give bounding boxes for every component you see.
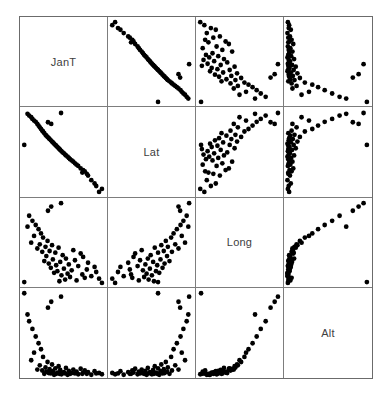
data-point	[148, 266, 153, 271]
data-point	[204, 31, 209, 36]
data-point	[228, 128, 233, 133]
data-point	[299, 115, 304, 120]
splom-diagonal-cell-alt: Alt	[284, 288, 372, 378]
data-point	[229, 137, 234, 142]
data-point	[179, 350, 184, 355]
data-point	[33, 222, 38, 227]
data-point	[42, 258, 47, 263]
data-point	[33, 334, 38, 339]
data-point	[145, 365, 150, 370]
data-point	[44, 253, 49, 258]
data-point	[307, 233, 312, 238]
data-point	[253, 96, 258, 101]
data-point	[80, 170, 85, 175]
data-point	[186, 96, 191, 101]
data-point	[299, 92, 304, 97]
data-point	[224, 369, 229, 374]
data-point	[89, 178, 94, 183]
data-point	[350, 208, 355, 213]
data-point	[113, 20, 118, 25]
data-point	[211, 172, 216, 177]
data-point	[285, 178, 290, 183]
data-point	[126, 260, 131, 265]
splom-scatter-plot	[284, 198, 372, 287]
data-point	[231, 86, 236, 91]
data-point	[220, 161, 225, 166]
data-point	[59, 294, 64, 299]
data-point	[224, 77, 229, 82]
data-point	[218, 34, 223, 39]
splom-panel-lat-vs-long	[196, 107, 284, 197]
data-point	[231, 122, 236, 127]
data-point	[49, 204, 54, 209]
data-point	[22, 143, 27, 148]
data-point	[59, 200, 64, 205]
data-point	[276, 294, 281, 299]
data-point	[242, 80, 247, 85]
data-point	[361, 200, 366, 205]
data-point	[225, 60, 230, 65]
data-point	[239, 76, 244, 81]
data-point	[302, 235, 307, 240]
data-point	[49, 122, 54, 127]
data-point	[227, 143, 232, 148]
splom-scatter-plot	[108, 198, 195, 287]
data-point	[322, 88, 327, 93]
data-point	[45, 238, 50, 243]
data-point	[233, 78, 238, 83]
data-point	[199, 291, 204, 296]
data-point	[292, 57, 297, 62]
data-point	[302, 129, 307, 134]
data-point	[22, 291, 27, 296]
data-point	[64, 365, 69, 370]
data-point	[361, 62, 366, 67]
data-point	[22, 279, 27, 284]
data-point	[150, 272, 155, 277]
data-point	[246, 127, 251, 132]
data-point	[310, 127, 315, 132]
data-point	[176, 367, 181, 372]
data-point	[214, 164, 219, 169]
data-point	[161, 248, 166, 253]
data-point	[330, 218, 335, 223]
data-point	[205, 149, 210, 154]
data-point	[51, 256, 56, 261]
data-point	[244, 89, 249, 94]
data-point	[210, 51, 215, 56]
data-point	[290, 86, 295, 91]
data-point	[237, 115, 242, 120]
data-point	[138, 257, 143, 262]
data-point	[299, 240, 304, 245]
data-point	[214, 44, 219, 49]
splom-scatter-plot	[20, 198, 107, 287]
data-point	[207, 154, 212, 159]
data-point	[307, 118, 312, 123]
data-point	[200, 63, 205, 68]
data-point	[146, 277, 151, 282]
splom-diagonal-cell-jant: JanT	[20, 17, 108, 107]
data-point	[213, 72, 218, 77]
data-point	[35, 367, 40, 372]
data-point	[62, 266, 67, 271]
data-point	[80, 371, 85, 376]
data-point	[169, 235, 174, 240]
data-point	[158, 256, 163, 261]
data-point	[242, 354, 247, 359]
splom-scatter-plot	[108, 288, 195, 378]
data-point	[54, 262, 59, 267]
data-point	[236, 125, 241, 130]
data-point	[286, 170, 291, 175]
data-point	[143, 262, 148, 267]
data-point	[39, 230, 44, 235]
data-point	[32, 233, 37, 238]
data-point	[228, 81, 233, 86]
data-point	[209, 184, 214, 189]
data-point	[227, 68, 232, 73]
data-point	[179, 233, 184, 238]
data-point	[235, 71, 240, 76]
data-point	[160, 265, 165, 270]
data-point	[78, 366, 83, 371]
data-point	[237, 92, 242, 97]
data-point	[294, 125, 299, 130]
splom-panel-jant-vs-long	[196, 17, 284, 107]
